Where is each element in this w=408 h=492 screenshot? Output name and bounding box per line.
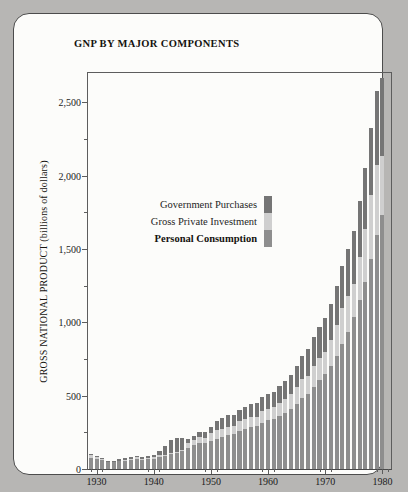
x-axis-label: 1970 xyxy=(315,476,335,487)
x-axis-tick-minor xyxy=(388,469,389,472)
x-axis-tick-minor xyxy=(148,469,149,472)
bar-segment xyxy=(197,443,201,469)
bar-segment xyxy=(306,349,310,376)
bar-segment xyxy=(352,284,356,318)
y-axis-title: GROSS NATIONAL PRODUCT (billions of doll… xyxy=(36,72,50,470)
bar-segment xyxy=(140,460,144,469)
bar-segment xyxy=(289,409,293,469)
bar-segment xyxy=(323,374,327,469)
bar-segment xyxy=(363,168,367,229)
plot-area: 05001,0001,5002,0002,5001930194019501960… xyxy=(87,72,392,470)
bar-1967 xyxy=(306,349,310,469)
chart-card: GNP BY MAJOR COMPONENTS GROSS NATIONAL P… xyxy=(13,13,383,475)
bar-segment xyxy=(226,427,230,435)
bar-segment xyxy=(352,317,356,469)
x-axis-tick xyxy=(211,469,212,474)
bar-1939 xyxy=(146,456,150,469)
bar-segment xyxy=(375,235,379,469)
bar-1930 xyxy=(95,456,99,469)
bar-1974 xyxy=(346,249,350,469)
bar-1960 xyxy=(266,394,270,469)
bar-segment xyxy=(243,429,247,469)
bar-segment xyxy=(340,308,344,344)
legend-label: Government Purchases xyxy=(160,199,264,210)
y-axis-tick xyxy=(82,249,88,250)
bar-segment xyxy=(232,415,236,426)
bar-1943 xyxy=(169,440,173,469)
bar-segment xyxy=(289,375,293,394)
bar-segment xyxy=(289,394,293,409)
bar-segment xyxy=(346,249,350,296)
x-axis-tick-minor xyxy=(320,469,321,472)
bar-segment xyxy=(220,437,224,469)
y-axis-title-text: GROSS NATIONAL PRODUCT (billions of doll… xyxy=(38,160,49,382)
bar-segment xyxy=(323,318,327,352)
bar-segment xyxy=(295,387,299,404)
bar-1970 xyxy=(323,318,327,469)
y-axis-tick-minor xyxy=(84,139,88,140)
figure-container: GNP BY MAJOR COMPONENTS GROSS NATIONAL P… xyxy=(0,0,408,492)
bar-segment xyxy=(249,417,253,427)
bar-1957 xyxy=(249,404,253,469)
x-axis-tick-minor xyxy=(377,469,378,472)
bar-segment xyxy=(220,429,224,437)
bar-segment xyxy=(197,437,201,444)
bar-segment xyxy=(380,156,384,215)
x-axis-tick xyxy=(97,469,98,474)
legend-swatch xyxy=(264,230,272,247)
bar-segment xyxy=(209,433,213,441)
bar-1959 xyxy=(260,397,264,469)
bar-1978 xyxy=(369,128,373,469)
bar-segment xyxy=(300,379,304,398)
bar-segment xyxy=(340,344,344,469)
bar-1962 xyxy=(277,386,281,469)
legend-swatch xyxy=(264,196,272,213)
bar-1977 xyxy=(363,168,367,469)
bar-segment xyxy=(312,366,316,387)
bar-1973 xyxy=(340,266,344,469)
bar-segment xyxy=(243,407,247,419)
bar-1975 xyxy=(352,231,356,469)
bar-segment xyxy=(175,438,179,452)
bar-segment xyxy=(369,128,373,195)
bar-segment xyxy=(89,458,93,469)
bar-segment xyxy=(129,460,133,469)
bar-1932 xyxy=(106,461,110,469)
y-axis-tick xyxy=(82,176,88,177)
bar-segment xyxy=(237,431,241,469)
bar-segment xyxy=(152,459,156,469)
bar-segment xyxy=(186,448,190,469)
bar-segment xyxy=(346,296,350,333)
bar-segment xyxy=(317,327,321,358)
bar-segment xyxy=(226,415,230,427)
bar-segment xyxy=(266,420,270,469)
bar-segment xyxy=(117,461,121,469)
bar-segment xyxy=(220,418,224,429)
y-axis-tick xyxy=(82,102,88,103)
bar-1966 xyxy=(300,356,304,469)
bar-segment xyxy=(232,434,236,469)
bar-1954 xyxy=(232,415,236,469)
x-axis-tick-minor xyxy=(274,469,275,472)
legend-item-gross_private_investment: Gross Private Investment xyxy=(124,213,272,230)
chart-legend: Government PurchasesGross Private Invest… xyxy=(124,196,272,247)
x-axis-tick-minor xyxy=(205,469,206,472)
bar-segment xyxy=(329,366,333,469)
bar-segment xyxy=(352,231,356,284)
bar-1964 xyxy=(289,375,293,469)
bar-1952 xyxy=(220,418,224,469)
x-axis-tick xyxy=(268,469,269,474)
bar-segment xyxy=(232,426,236,434)
y-axis-tick-minor xyxy=(84,432,88,433)
x-axis-tick xyxy=(325,469,326,474)
bar-segment xyxy=(260,423,264,469)
bar-segment xyxy=(237,421,241,431)
bar-segment xyxy=(266,409,270,420)
bar-1936 xyxy=(129,457,133,469)
x-axis-tick-minor xyxy=(217,469,218,472)
bar-segment xyxy=(335,286,339,325)
bar-segment xyxy=(323,352,327,374)
bar-1969 xyxy=(317,327,321,469)
x-axis-label: 1930 xyxy=(87,476,107,487)
bar-segment xyxy=(255,417,259,426)
